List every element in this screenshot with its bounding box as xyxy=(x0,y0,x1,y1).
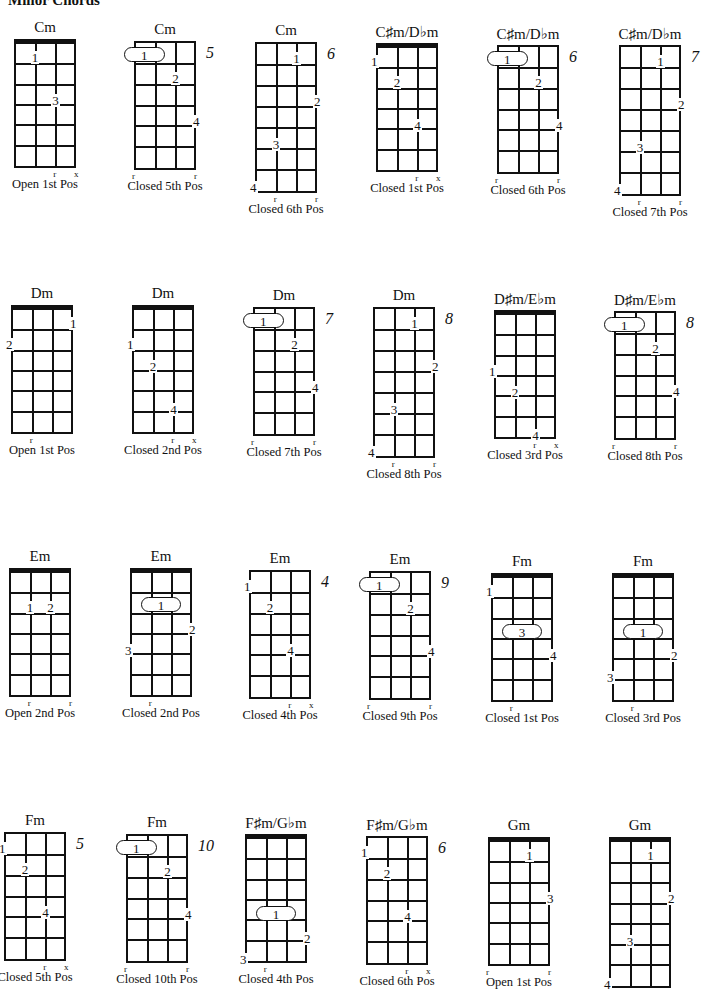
chord-name: Fm xyxy=(0,812,96,829)
chord-name: C♯m/D♭m xyxy=(346,23,468,41)
finger-number: 4 xyxy=(413,119,422,132)
position-caption: Closed 3rd Pos xyxy=(464,448,586,463)
finger-number: 2 xyxy=(290,338,299,351)
fret-line xyxy=(257,127,315,129)
fret-line xyxy=(257,85,315,87)
fret-line xyxy=(378,88,436,90)
fret-line xyxy=(136,146,194,148)
chord-name: Dm xyxy=(0,285,103,302)
fret-line xyxy=(136,63,194,65)
fret-line xyxy=(6,937,64,939)
finger-number: 2 xyxy=(163,865,172,878)
fret-line xyxy=(499,109,557,111)
fret-position-number: 6 xyxy=(327,45,335,63)
position-caption: Closed 6th Pos xyxy=(336,974,458,989)
fret-line xyxy=(499,129,557,131)
fret-line xyxy=(16,84,74,86)
fret-line xyxy=(128,856,186,858)
fret-line xyxy=(616,416,674,418)
fret-line xyxy=(13,390,71,392)
finger-number: 2 xyxy=(667,892,676,905)
finger-number: 3 xyxy=(606,671,615,684)
fret-line xyxy=(257,148,315,150)
fret-line xyxy=(16,124,74,126)
fret-line xyxy=(616,375,674,377)
fret-line xyxy=(493,658,551,660)
finger-number: 1 xyxy=(646,849,655,862)
fret-line xyxy=(11,592,69,594)
finger-number: 1 xyxy=(243,580,252,593)
finger-number: 4 xyxy=(286,644,295,657)
barre-marker: 1 xyxy=(243,313,284,328)
position-caption: Closed 8th Pos xyxy=(584,449,705,464)
fret-line xyxy=(378,67,436,69)
fret-line xyxy=(371,593,429,595)
fret-line xyxy=(136,84,194,86)
fret-line xyxy=(496,375,554,377)
finger-number: 4 xyxy=(367,446,376,459)
fret-line xyxy=(614,679,672,681)
fret-line xyxy=(128,939,186,941)
chord-name: Gm xyxy=(579,817,701,834)
finger-number: 4 xyxy=(603,978,612,991)
fret-line xyxy=(251,613,309,615)
finger-number: 4 xyxy=(427,645,436,658)
position-caption: Closed 10th Pos xyxy=(96,972,218,987)
finger-number: 3 xyxy=(546,892,555,905)
fret-line xyxy=(611,923,669,925)
fret-position-number: 9 xyxy=(441,574,449,592)
fret-position-number: 8 xyxy=(686,314,694,332)
finger-number: 2 xyxy=(406,602,415,615)
fret-line xyxy=(496,416,554,418)
finger-number: 3 xyxy=(124,644,133,657)
fret-line xyxy=(16,104,74,106)
chord-name: Fm xyxy=(461,553,583,570)
finger-number: 2 xyxy=(303,932,312,945)
fret-position-number: 4 xyxy=(321,573,329,591)
position-caption: Closed 2nd Pos xyxy=(102,443,224,458)
fret-line xyxy=(11,674,69,676)
finger-number: 2 xyxy=(670,649,679,662)
fretboard-grid xyxy=(609,837,671,988)
finger-number: 2 xyxy=(149,360,158,373)
fret-line xyxy=(134,370,192,372)
fret-line xyxy=(13,411,71,413)
fret-line xyxy=(493,618,551,620)
fret-line xyxy=(11,653,69,655)
fret-line xyxy=(375,329,433,331)
barre-marker: 1 xyxy=(256,906,297,921)
finger-number: 4 xyxy=(192,115,201,128)
finger-number: 2 xyxy=(46,601,55,614)
fret-line xyxy=(247,858,305,860)
fret-line xyxy=(371,635,429,637)
finger-number: 1 xyxy=(656,55,665,68)
finger-number: 1 xyxy=(370,55,379,68)
page-title: Minor Chords xyxy=(8,0,100,9)
position-caption: Closed 5th Pos xyxy=(104,179,226,194)
fretboard-grid xyxy=(619,45,681,196)
fret-line xyxy=(134,411,192,413)
finger-number: 4 xyxy=(613,184,622,197)
chord-name: Cm xyxy=(0,19,106,36)
finger-number: 3 xyxy=(636,141,645,154)
chord-name: C♯m/D♭m xyxy=(467,25,589,43)
fret-line xyxy=(247,899,305,901)
finger-number: 4 xyxy=(184,908,193,921)
fret-line xyxy=(6,916,64,918)
finger-number: 2 xyxy=(651,342,660,355)
fret-line xyxy=(247,879,305,881)
finger-number: 4 xyxy=(311,381,320,394)
finger-number: 1 xyxy=(525,849,534,862)
fret-line xyxy=(614,618,672,620)
fret-line xyxy=(16,145,74,147)
fret-line xyxy=(128,877,186,879)
position-caption: Closed 6th Pos xyxy=(467,183,589,198)
fretboard-grid xyxy=(249,570,311,699)
fret-line xyxy=(134,329,192,331)
barre-marker: 3 xyxy=(502,624,543,639)
fret-line xyxy=(616,333,674,335)
barre-marker: 1 xyxy=(623,624,664,639)
finger-number: 2 xyxy=(171,72,180,85)
fretboard-grid xyxy=(245,834,307,963)
fretboard-grid xyxy=(488,837,550,966)
